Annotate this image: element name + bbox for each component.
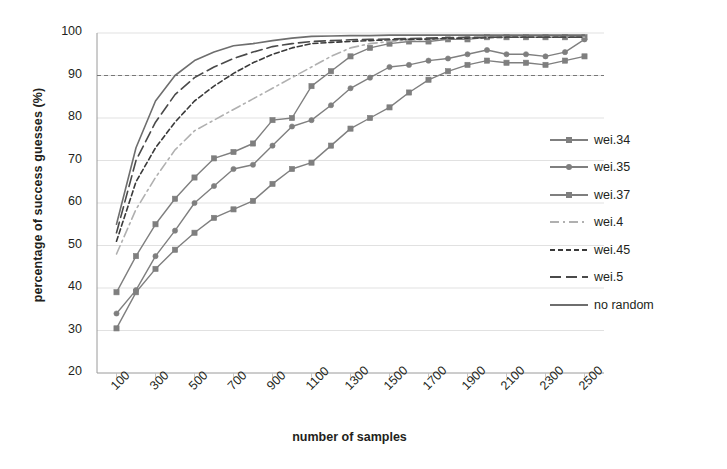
legend-item-wei-4[interactable]: wei.4 <box>548 209 723 237</box>
data-point-wei-34-2000 <box>484 58 489 63</box>
data-point-wei-35-1300 <box>348 86 353 91</box>
data-point-wei-35-1100 <box>309 118 314 123</box>
data-point-wei-35-2000 <box>484 47 489 52</box>
data-point-wei-34-400 <box>172 247 177 252</box>
data-point-wei-35-100 <box>114 311 119 316</box>
data-point-wei-35-2100 <box>504 52 509 57</box>
legend-swatch-icon <box>548 215 590 229</box>
data-point-wei-37-1000 <box>289 115 294 120</box>
data-point-wei-37-800 <box>250 141 255 146</box>
data-point-wei-35-1900 <box>465 52 470 57</box>
y-tick-label-30: 30 <box>38 322 82 336</box>
data-point-wei-34-1000 <box>289 166 294 171</box>
data-point-wei-34-1400 <box>367 115 372 120</box>
legend-swatch-icon <box>548 270 590 284</box>
data-point-wei-35-2200 <box>523 52 528 57</box>
legend-item-wei-5[interactable]: wei.5 <box>548 264 723 292</box>
data-point-wei-34-2200 <box>523 60 528 65</box>
data-point-wei-34-1300 <box>348 126 353 131</box>
legend-label: wei.45 <box>594 243 630 257</box>
chart-legend: wei.34wei.35wei.37wei.4wei.45wei.5no ran… <box>548 126 723 319</box>
data-point-wei-35-1500 <box>387 64 392 69</box>
y-tick-label-20: 20 <box>38 364 82 378</box>
data-point-wei-34-1600 <box>406 90 411 95</box>
data-point-wei-37-700 <box>231 149 236 154</box>
y-tick-label-60: 60 <box>38 194 82 208</box>
data-point-wei-35-1400 <box>367 75 372 80</box>
data-point-wei-34-1200 <box>328 143 333 148</box>
y-tick-label-70: 70 <box>38 152 82 166</box>
data-point-wei-37-600 <box>211 156 216 161</box>
legend-label: wei.35 <box>594 160 630 174</box>
legend-swatch-icon <box>548 243 590 257</box>
data-point-wei-34-300 <box>153 266 158 271</box>
legend-label: no random <box>594 298 654 312</box>
data-point-wei-35-1200 <box>328 103 333 108</box>
legend-item-wei-34[interactable]: wei.34 <box>548 126 723 154</box>
data-point-wei-34-600 <box>211 215 216 220</box>
legend-label: wei.4 <box>594 215 623 229</box>
data-point-wei-34-2500 <box>582 54 587 59</box>
data-point-wei-35-1600 <box>406 62 411 67</box>
legend-label: wei.5 <box>594 270 623 284</box>
data-point-wei-34-900 <box>270 181 275 186</box>
legend-item-wei-35[interactable]: wei.35 <box>548 154 723 182</box>
data-point-wei-37-500 <box>192 175 197 180</box>
y-tick-label-90: 90 <box>38 67 82 81</box>
series-line-wei-4 <box>117 37 585 254</box>
legend-item-wei-45[interactable]: wei.45 <box>548 236 723 264</box>
data-point-wei-37-1100 <box>309 84 314 89</box>
data-point-wei-34-700 <box>231 207 236 212</box>
data-point-wei-35-800 <box>250 162 255 167</box>
legend-swatch-icon <box>548 133 590 147</box>
legend-label: wei.37 <box>594 188 630 202</box>
data-point-wei-34-2100 <box>504 60 509 65</box>
legend-item-wei-37[interactable]: wei.37 <box>548 181 723 209</box>
data-point-wei-34-1900 <box>465 62 470 67</box>
data-point-wei-34-1800 <box>445 69 450 74</box>
data-point-wei-35-900 <box>270 143 275 148</box>
legend-label: wei.34 <box>594 133 630 147</box>
data-point-wei-35-2400 <box>562 50 567 55</box>
data-point-wei-37-400 <box>172 196 177 201</box>
data-point-wei-34-1500 <box>387 105 392 110</box>
chart-figure: percentage of success guesses (%) number… <box>0 0 727 469</box>
data-point-wei-35-1800 <box>445 56 450 61</box>
data-point-wei-37-1300 <box>348 54 353 59</box>
data-point-wei-37-200 <box>133 254 138 259</box>
legend-item-no-random[interactable]: no random <box>548 291 723 319</box>
data-point-wei-34-2400 <box>562 58 567 63</box>
legend-swatch-icon <box>548 298 590 312</box>
legend-swatch-icon <box>548 188 590 202</box>
data-point-wei-34-800 <box>250 198 255 203</box>
data-point-wei-35-200 <box>133 288 138 293</box>
data-point-wei-37-1200 <box>328 69 333 74</box>
legend-swatch-icon <box>548 160 590 174</box>
data-point-wei-34-2300 <box>543 62 548 67</box>
data-point-wei-35-700 <box>231 166 236 171</box>
y-tick-label-100: 100 <box>38 24 82 38</box>
data-point-wei-34-1100 <box>309 160 314 165</box>
y-tick-label-80: 80 <box>38 109 82 123</box>
data-point-wei-34-500 <box>192 230 197 235</box>
data-point-wei-35-1700 <box>426 58 431 63</box>
data-point-wei-37-900 <box>270 118 275 123</box>
data-point-wei-35-600 <box>211 183 216 188</box>
data-point-wei-35-500 <box>192 200 197 205</box>
data-point-wei-35-2300 <box>543 54 548 59</box>
y-tick-label-40: 40 <box>38 279 82 293</box>
data-point-wei-35-400 <box>172 228 177 233</box>
data-point-wei-37-300 <box>153 222 158 227</box>
data-point-wei-34-100 <box>114 326 119 331</box>
data-point-wei-37-1400 <box>367 45 372 50</box>
y-tick-label-50: 50 <box>38 237 82 251</box>
data-point-wei-37-100 <box>114 290 119 295</box>
series-line-wei-35 <box>117 39 585 313</box>
data-point-wei-35-1000 <box>289 124 294 129</box>
data-point-wei-35-300 <box>153 254 158 259</box>
data-point-wei-34-1700 <box>426 77 431 82</box>
